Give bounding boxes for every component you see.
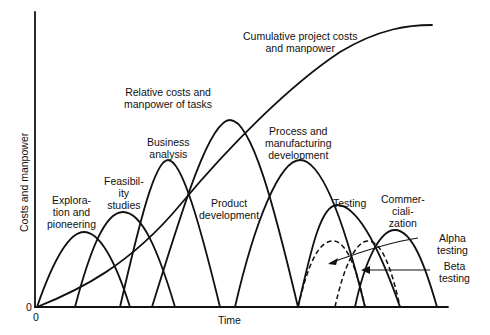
alpha-testing-label: Alpha testing — [437, 232, 468, 256]
feasibility-label-line3: studies — [104, 199, 144, 211]
beta-label-line1: Beta — [439, 260, 470, 272]
alpha-label-line1: Alpha — [437, 232, 468, 244]
beta-testing-label: Beta testing — [439, 260, 470, 284]
alpha-label-line2: testing — [437, 244, 468, 256]
exploration-label: Explora- tion and pioneering — [47, 194, 96, 230]
business-label-line2: analysis — [147, 148, 190, 160]
origin-x-label: 0 — [33, 311, 39, 323]
feasibility-label-line1: Feasibil- — [104, 175, 144, 187]
product-development-label: Product development — [199, 197, 259, 221]
commercialization-label: Commer- ciali- zation — [381, 193, 425, 229]
testing-label: Testing — [333, 197, 366, 209]
relative-label-line2: manpower of tasks — [124, 98, 212, 110]
relative-label-line1: Relative costs and — [124, 86, 212, 98]
feasibility-label: Feasibil- ity studies — [104, 175, 144, 211]
product-label-line2: development — [199, 209, 259, 221]
feasibility-label-line2: ity — [104, 187, 144, 199]
process-manufacturing-curve — [235, 160, 365, 307]
commercial-label-line2: ciali- — [381, 205, 425, 217]
product-label-line1: Product — [199, 197, 259, 209]
cumulative-curve — [37, 25, 432, 307]
business-label-line1: Business — [147, 136, 190, 148]
relative-label: Relative costs and manpower of tasks — [124, 86, 212, 110]
y-axis-label: Costs and manpower — [18, 133, 30, 232]
x-axis-label: Time — [218, 314, 241, 326]
exploration-label-line2: tion and — [47, 206, 96, 218]
exploration-curve — [37, 232, 130, 307]
exploration-label-line1: Explora- — [47, 194, 96, 206]
origin-y-label: 0 — [26, 301, 32, 313]
commercial-label-line3: zation — [381, 217, 425, 229]
exploration-label-line3: pioneering — [47, 218, 96, 230]
cumulative-label-line2: and manpower — [243, 42, 357, 54]
beta-label-line2: testing — [439, 272, 470, 284]
commercial-label-line1: Commer- — [381, 193, 425, 205]
process-label-line1: Process and — [265, 125, 332, 137]
cumulative-label: Cumulative project costs and manpower — [243, 30, 357, 54]
process-label-line3: development — [265, 149, 332, 161]
business-analysis-label: Business analysis — [147, 136, 190, 160]
cumulative-label-line1: Cumulative project costs — [243, 30, 357, 42]
process-label-line2: manufacturing — [265, 137, 332, 149]
alpha-arrowhead-icon — [328, 258, 338, 265]
process-manufacturing-label: Process and manufacturing development — [265, 125, 332, 161]
beta-testing-curve — [335, 241, 400, 307]
